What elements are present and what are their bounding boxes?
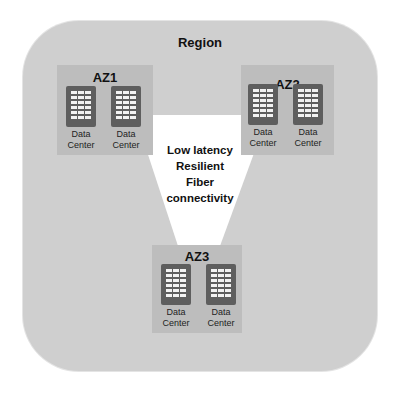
server-rack-icon — [66, 86, 96, 127]
az3-box: AZ3 DataCenter DataCenter — [152, 245, 242, 333]
server-rack-icon — [161, 264, 191, 305]
connectivity-line-3: Fiber — [150, 174, 250, 190]
az3-label: AZ3 — [152, 249, 242, 264]
data-center-label: DataCenter — [285, 127, 331, 149]
connectivity-line-1: Low latency — [150, 142, 250, 158]
az1-box: AZ1 DataCenter DataCenter — [57, 65, 153, 155]
data-center: DataCenter — [109, 86, 143, 151]
data-center-label: DataCenter — [198, 307, 244, 329]
server-rack-icon — [293, 84, 323, 125]
az1-label: AZ1 — [57, 70, 153, 85]
connectivity-label: Low latency Resilient Fiber connectivity — [150, 142, 250, 206]
data-center: DataCenter — [159, 264, 193, 329]
data-center-label: DataCenter — [240, 127, 286, 149]
server-rack-icon — [206, 264, 236, 305]
data-center: DataCenter — [291, 84, 325, 149]
connectivity-line-4: connectivity — [150, 190, 250, 206]
data-center: DataCenter — [246, 84, 280, 149]
az2-box: AZ2 DataCenter DataCenter — [241, 65, 334, 155]
data-center-label: DataCenter — [153, 307, 199, 329]
data-center-label: DataCenter — [103, 129, 149, 151]
server-rack-icon — [111, 86, 141, 127]
connectivity-line-2: Resilient — [150, 158, 250, 174]
data-center: DataCenter — [64, 86, 98, 151]
data-center: DataCenter — [204, 264, 238, 329]
data-center-label: DataCenter — [58, 129, 104, 151]
server-rack-icon — [248, 84, 278, 125]
